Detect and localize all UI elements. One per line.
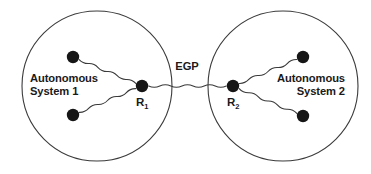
router-label-r2: R2 xyxy=(227,96,239,111)
router-node-r1 xyxy=(136,80,148,92)
autonomous-system-2-label-line1: Autonomous xyxy=(277,72,345,84)
host-node-as1-top xyxy=(67,51,79,63)
router-label-r1: R1 xyxy=(136,96,148,111)
host-node-as2-bottom xyxy=(297,110,309,122)
link-as2-router-to-host-bottom xyxy=(239,89,297,114)
router-label-r2-subscript: 2 xyxy=(235,102,239,111)
egp-protocol-label: EGP xyxy=(175,60,199,72)
link-egp-interdomain xyxy=(149,85,227,88)
autonomous-system-1-label-line1: Autonomous xyxy=(30,72,98,84)
host-node-as1-bottom xyxy=(67,109,79,121)
autonomous-system-1-label-line2: System 1 xyxy=(30,85,78,97)
link-as1-host-bottom-to-router xyxy=(79,89,136,113)
router-node-r2 xyxy=(227,80,239,92)
autonomous-system-2-label-line2: System 2 xyxy=(297,85,345,97)
host-node-as2-top xyxy=(297,51,309,63)
network-diagram: Autonomous System 1 Autonomous System 2 … xyxy=(0,0,371,174)
diagram-canvas: Autonomous System 1 Autonomous System 2 … xyxy=(0,0,371,174)
router-label-r1-subscript: 1 xyxy=(144,102,148,111)
